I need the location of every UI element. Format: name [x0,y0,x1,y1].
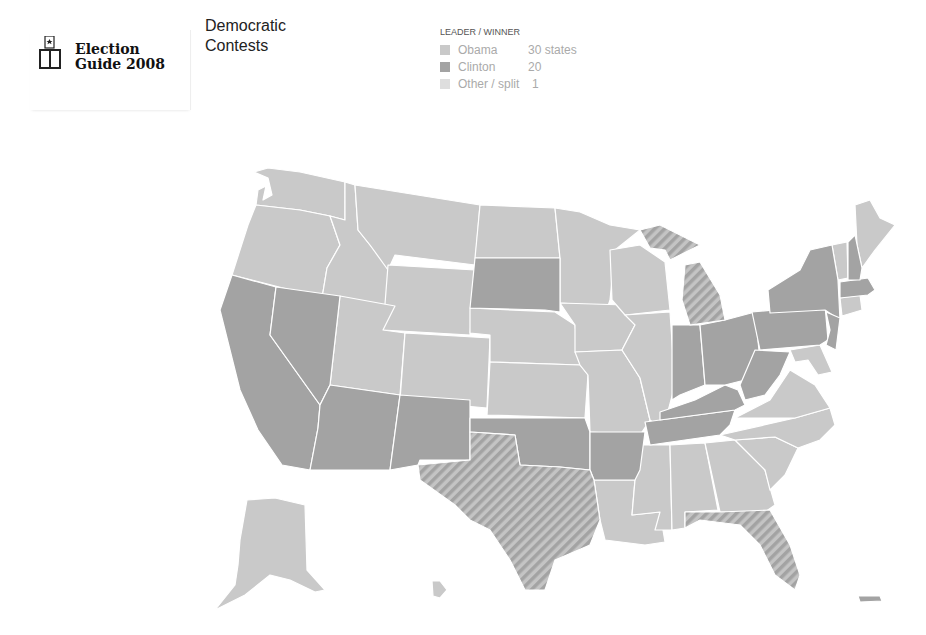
territory-PR[interactable] [858,596,882,602]
state-NY[interactable] [768,245,840,320]
state-AZ[interactable] [310,385,400,470]
us-map [0,0,926,635]
state-SD[interactable] [470,258,560,312]
state-NM[interactable] [390,395,470,470]
state-WI[interactable] [610,245,670,315]
state-FL[interactable] [685,510,800,590]
state-AR[interactable] [590,432,645,480]
state-MI-lower[interactable] [682,262,725,325]
state-KS[interactable] [487,362,588,418]
state-AK[interactable] [215,498,325,610]
state-WY[interactable] [383,265,475,335]
state-MA[interactable] [840,278,875,298]
state-IN[interactable] [672,325,705,400]
state-MD[interactable] [790,345,832,375]
state-HI[interactable] [432,581,447,598]
state-ME[interactable] [855,200,895,268]
state-ND[interactable] [475,205,560,258]
state-NJ[interactable] [826,312,840,350]
